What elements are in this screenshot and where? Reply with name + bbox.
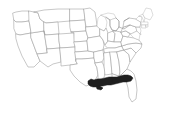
state-rhode-island bbox=[146, 25, 148, 27]
state-missouri bbox=[87, 36, 104, 52]
state-connecticut bbox=[142, 25, 146, 28]
state-new-mexico bbox=[60, 47, 77, 66]
state-massachusetts bbox=[141, 22, 148, 25]
state-outlines-group bbox=[13, 8, 153, 102]
us-map-figure: United States state outline map Black an… bbox=[0, 0, 169, 116]
state-arkansas bbox=[94, 50, 104, 63]
state-minnesota bbox=[84, 8, 97, 27]
state-wyoming bbox=[44, 22, 59, 35]
state-kansas bbox=[74, 41, 88, 52]
state-north-dakota bbox=[70, 9, 85, 21]
state-washington bbox=[13, 11, 30, 22]
united-states-outline-map: United States state outline map Black an… bbox=[0, 0, 169, 116]
state-colorado bbox=[59, 33, 75, 48]
highlight-louisiana-delta bbox=[96, 86, 103, 90]
state-oregon bbox=[14, 20, 31, 35]
state-south-dakota bbox=[70, 20, 86, 32]
